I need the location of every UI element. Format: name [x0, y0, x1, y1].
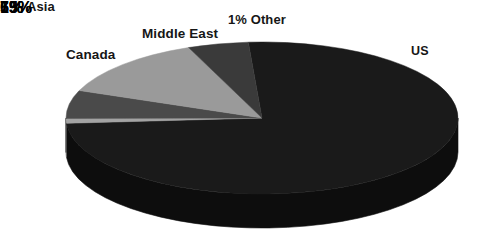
slice-label-us: US: [411, 45, 429, 58]
pie-top-faces: [66, 42, 458, 194]
pie-chart: Asia Canada Middle East 1% Other US 75% …: [0, 0, 482, 247]
slice-value-asia: 5%: [0, 0, 23, 16]
slice-label-middle-east: Middle East: [142, 27, 218, 41]
pie-chart-graphic: [0, 0, 482, 247]
slice-label-other: 1% Other: [228, 13, 286, 26]
slice-label-canada: Canada: [66, 48, 115, 62]
